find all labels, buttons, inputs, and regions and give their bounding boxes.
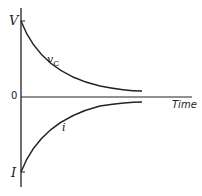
vc-curve-label: vC [47,54,59,65]
vc-label-subscript: C [53,59,59,68]
i-curve [21,102,142,172]
i-curve-label: i [62,122,66,133]
zero-label: 0 [11,91,17,101]
capacitor-discharge-diagram [0,0,202,196]
vc-curve [21,21,142,91]
time-axis-label: Time [172,100,197,110]
i-min-label: I [11,166,16,179]
v-max-label: V [9,14,18,27]
